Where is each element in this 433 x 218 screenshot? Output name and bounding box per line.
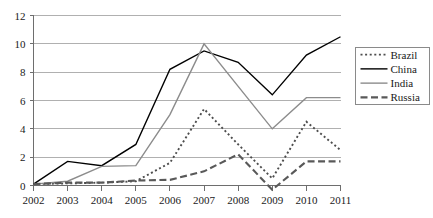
chart-legend: BrazilChinaIndiaRussia (356, 48, 430, 105)
y-tick-label-4: 4 (20, 123, 26, 135)
x-tick-label-2008: 2008 (227, 194, 250, 206)
x-axis-tick-labels: 2002200320042005200620072008200920102011 (23, 194, 352, 206)
series-line-china (34, 37, 341, 184)
gridlines (34, 16, 341, 158)
x-tick-label-2006: 2006 (159, 194, 182, 206)
y-tick-label-10: 10 (15, 38, 27, 50)
line-chart: 024681012 200220032004200520062007200820… (0, 0, 433, 218)
data-series-group (34, 37, 341, 190)
y-tick-label-2: 2 (20, 151, 26, 163)
axes (30, 16, 341, 191)
y-tick-label-8: 8 (20, 66, 26, 78)
y-tick-label-0: 0 (20, 180, 26, 192)
chart-canvas: 024681012 200220032004200520062007200820… (0, 0, 433, 218)
series-line-brazil (34, 109, 341, 184)
x-tick-label-2007: 2007 (193, 194, 216, 206)
x-tick-label-2002: 2002 (23, 194, 45, 206)
x-tick-label-2005: 2005 (125, 194, 148, 206)
legend-label-china: China (391, 63, 417, 75)
y-tick-label-12: 12 (15, 10, 26, 22)
legend-label-india: India (391, 77, 414, 89)
legend-label-russia: Russia (391, 91, 420, 103)
x-tick-label-2004: 2004 (91, 194, 114, 206)
series-line-russia (34, 154, 341, 189)
x-tick-label-2003: 2003 (57, 194, 80, 206)
y-tick-label-6: 6 (20, 95, 26, 107)
x-tick-label-2009: 2009 (261, 194, 284, 206)
y-axis-tick-labels: 024681012 (15, 10, 27, 192)
legend-label-brazil: Brazil (391, 49, 418, 61)
x-tick-label-2011: 2011 (330, 194, 352, 206)
x-tick-label-2010: 2010 (295, 194, 318, 206)
